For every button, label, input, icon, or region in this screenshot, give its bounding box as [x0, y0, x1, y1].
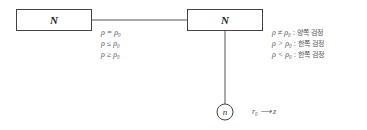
population-label-left: N — [50, 14, 58, 26]
condition-equal: ρ = ρ₀ — [101, 27, 121, 38]
test-type-one-sided-lower: 한쪽 검정 — [298, 51, 324, 59]
fisher-transform-label: r₀ ⟶ z — [252, 106, 276, 117]
population-label-right: N — [221, 14, 229, 26]
hypothesis-not-equal: ρ ≠ ρ₀ — [272, 28, 291, 37]
hypothesis-greater: ρ > ρ₀ — [272, 39, 292, 48]
hypothesis-less: ρ < ρ₀ — [272, 50, 292, 59]
population-box-right: N — [187, 9, 263, 31]
condition-less-equal: ρ ≤ ρ₀ — [101, 38, 120, 49]
condition-greater-equal: ρ ≥ ρ₀ — [101, 49, 120, 60]
sample-size-label: n — [217, 104, 233, 120]
test-type-two-sided: 양쪽 검정 — [297, 29, 323, 37]
hypothesis-row-less: ρ < ρ₀ : 한쪽 검정 — [272, 49, 324, 61]
population-box-left: N — [16, 9, 92, 31]
test-type-one-sided-upper: 한쪽 검정 — [298, 40, 324, 48]
